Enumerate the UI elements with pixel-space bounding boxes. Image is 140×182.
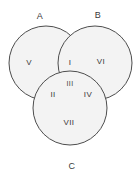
set-label-c: C [69, 161, 76, 171]
region-label-iii: III [66, 80, 73, 87]
region-label-vi: VI [97, 57, 105, 66]
venn-diagram: A B C V I VI III II IV VII [0, 0, 140, 182]
region-label-v: V [26, 58, 32, 67]
set-label-b: B [95, 10, 101, 20]
set-label-a: A [37, 11, 43, 21]
region-label-i: I [69, 58, 72, 67]
region-label-ii: II [50, 90, 55, 99]
region-label-vii: VII [64, 118, 75, 127]
region-label-iv: IV [84, 90, 93, 99]
venn-diagram-canvas: A B C V I VI III II IV VII [0, 0, 140, 182]
